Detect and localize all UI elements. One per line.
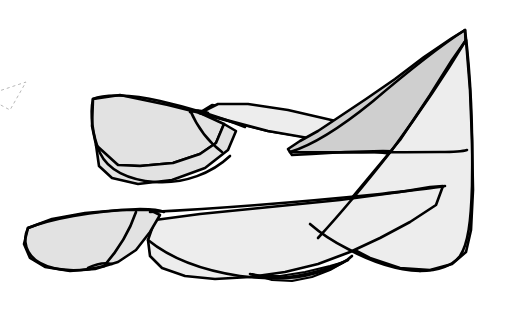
faceted-ribbon-figure bbox=[0, 0, 508, 313]
illustration-canvas bbox=[0, 0, 508, 313]
